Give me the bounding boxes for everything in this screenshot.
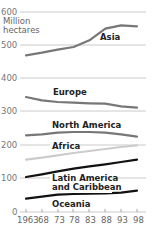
y-tick-label: 500	[1, 40, 17, 50]
x-tick-label: 68	[38, 215, 49, 225]
series-line-asia	[26, 25, 137, 55]
series-label-latin-america-line2: and Caribbean	[52, 182, 122, 192]
x-tick-label: 88	[101, 215, 112, 225]
series-line-europe	[26, 97, 137, 108]
series-label-north-america: North America	[52, 120, 122, 130]
series-label-europe: Europe	[53, 87, 87, 97]
series-label-oceania: Oceania	[52, 199, 91, 209]
chart-canvas: 600 500 400 300 200 100 0 Million hectar…	[0, 0, 152, 231]
y-tick-label: 200	[1, 140, 17, 150]
y-tick-label: 400	[1, 73, 17, 83]
series-label-asia: Asia	[100, 32, 121, 42]
y-tick-label: 300	[1, 106, 17, 116]
y-tick-label: 100	[1, 173, 17, 183]
x-tick-label: 78	[69, 215, 80, 225]
x-tick-label: 73	[54, 215, 65, 225]
x-tick-label: 1963	[17, 215, 39, 225]
series-label-africa: Africa	[52, 141, 80, 151]
series-line-north-america	[26, 132, 137, 137]
x-tick-label: 98	[133, 215, 144, 225]
x-axis: 1963 68 73 78 83 88 93 98	[17, 215, 144, 225]
x-axis-ticks	[26, 209, 137, 212]
y-axis-unit: hectares	[3, 25, 40, 35]
y-axis: 600 500 400 300 200 100 0	[1, 7, 17, 217]
line-chart: 600 500 400 300 200 100 0 Million hectar…	[0, 0, 152, 231]
x-tick-label: 83	[85, 215, 96, 225]
series-line-africa	[26, 145, 137, 159]
x-tick-label: 93	[117, 215, 128, 225]
